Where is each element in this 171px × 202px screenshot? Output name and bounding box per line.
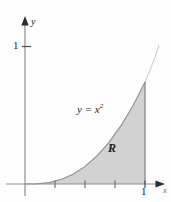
curve-equation-exponent: 2	[100, 102, 104, 110]
x-axis-label: x	[163, 186, 167, 195]
curve-equation-text: y = x	[77, 103, 100, 115]
figure-canvas	[0, 0, 171, 202]
y-tick-label-1: 1	[13, 40, 19, 51]
curve-equation-label: y = x2	[77, 104, 103, 115]
parabola-region-figure: y x 1 1 y = x2 R	[0, 0, 171, 202]
region-label-r: R	[108, 142, 116, 154]
parabola-curve-extension	[145, 45, 159, 82]
shaded-region-r	[25, 82, 145, 184]
y-axis-label: y	[31, 17, 35, 27]
x-tick-label-1: 1	[141, 186, 147, 197]
y-axis-arrowhead	[21, 16, 28, 26]
